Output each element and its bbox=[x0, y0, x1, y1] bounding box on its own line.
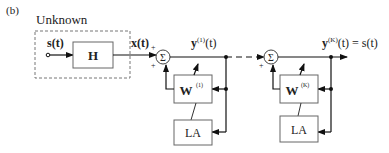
wk-to-summer-arrow bbox=[273, 65, 280, 89]
mixing-block-label: H bbox=[88, 48, 98, 63]
unmix-block-k-sup: (K) bbox=[301, 82, 309, 89]
wk-adapt-arrow bbox=[300, 64, 304, 75]
la-block-1-label: LA bbox=[185, 126, 201, 140]
summer-1-plus-bottom: + bbox=[151, 61, 156, 70]
stage1-output-label: y(1)(t) bbox=[191, 36, 217, 50]
panel-label: (b) bbox=[6, 4, 19, 17]
unmix-block-k-label: W bbox=[286, 83, 299, 98]
unmix-block-1-sup: (1) bbox=[196, 82, 203, 89]
unmix-block-1-label: W bbox=[180, 83, 193, 98]
summer-k-symbol: Σ bbox=[268, 52, 274, 63]
summer-1-symbol: Σ bbox=[160, 52, 166, 63]
lak-adapt-link bbox=[298, 103, 301, 116]
w1-to-summer-arrow bbox=[166, 65, 174, 89]
final-output-label: y(K)(t) = s(t) bbox=[322, 36, 378, 50]
w1-adapt-arrow bbox=[194, 64, 198, 75]
mixed-signal-label: x(t) bbox=[131, 36, 149, 50]
la1-adapt-link bbox=[191, 103, 196, 120]
summer-k-plus-bottom: + bbox=[259, 61, 264, 70]
la-block-k-label: LA bbox=[291, 123, 307, 137]
unknown-group-title: Unknown bbox=[36, 12, 88, 27]
source-terminal bbox=[46, 53, 50, 57]
source-signal-label: s(t) bbox=[47, 36, 64, 50]
separation-diagram: (b) Unknown s(t) H x(t) Σ + + y(1)(t) W … bbox=[0, 0, 389, 153]
summer-1-plus-top: + bbox=[151, 43, 156, 52]
